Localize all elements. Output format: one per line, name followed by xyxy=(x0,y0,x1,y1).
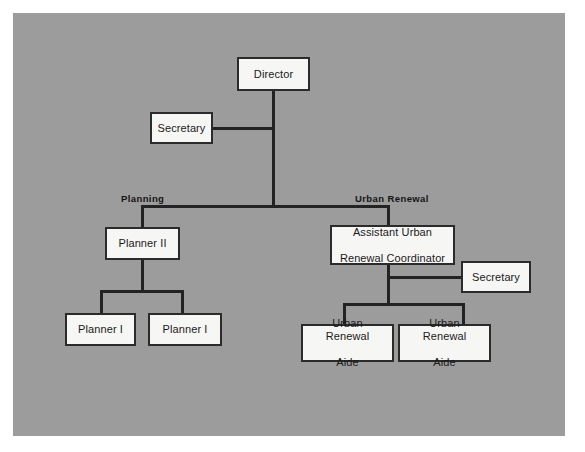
node-secretary-urban-renewal-label: Secretary xyxy=(469,271,523,284)
edge-branch-to-coordinator xyxy=(387,205,390,225)
edge-director-secretary xyxy=(212,127,275,130)
node-director-label: Director xyxy=(251,68,296,81)
node-secretary-urban-renewal[interactable]: Secretary xyxy=(461,261,531,293)
edge-branch-bar xyxy=(141,205,390,208)
node-aide-right-line-1: Urban Renewal xyxy=(403,317,486,343)
node-planner-ii-label: Planner II xyxy=(115,237,169,250)
edge-coordinator-trunk xyxy=(387,264,390,304)
node-coordinator-line-2: Renewal Coordinator xyxy=(337,252,448,265)
edge-branch-to-planner-ii xyxy=(141,205,144,228)
edge-planner-i-bar xyxy=(100,290,184,293)
node-aide-left-label: Urban Renewal Aide xyxy=(303,317,392,369)
edge-aide-bar xyxy=(343,303,465,306)
edge-coordinator-secretary xyxy=(387,276,462,279)
node-planner-i-left-label: Planner I xyxy=(75,323,126,336)
edge-bar-to-planner-i-right xyxy=(181,290,184,313)
node-planner-ii[interactable]: Planner II xyxy=(105,227,180,260)
node-aide-right-line-2: Aide xyxy=(403,356,486,369)
node-planner-i-right[interactable]: Planner I xyxy=(148,313,222,346)
node-planner-i-right-label: Planner I xyxy=(160,323,211,336)
node-secretary-director-label: Secretary xyxy=(155,122,209,135)
node-director[interactable]: Director xyxy=(237,57,310,91)
org-chart-panel: Planning Urban Renewal Director Secretar… xyxy=(13,13,565,436)
node-planner-i-left[interactable]: Planner I xyxy=(65,313,136,346)
node-aide-right-label: Urban Renewal Aide xyxy=(400,317,489,369)
edge-director-trunk xyxy=(272,90,275,208)
node-urban-renewal-aide-left[interactable]: Urban Renewal Aide xyxy=(301,324,394,362)
group-label-urban-renewal: Urban Renewal xyxy=(355,193,429,204)
node-coordinator-line-1: Assistant Urban xyxy=(337,226,448,239)
node-coordinator-label: Assistant Urban Renewal Coordinator xyxy=(334,226,451,265)
edge-bar-to-planner-i-left xyxy=(100,290,103,313)
group-label-planning: Planning xyxy=(121,193,164,204)
node-aide-left-line-2: Aide xyxy=(306,356,389,369)
node-aide-left-line-1: Urban Renewal xyxy=(306,317,389,343)
node-assistant-urban-renewal-coordinator[interactable]: Assistant Urban Renewal Coordinator xyxy=(330,225,455,265)
node-secretary-director[interactable]: Secretary xyxy=(150,112,213,144)
edge-planner-ii-trunk xyxy=(141,259,144,291)
node-urban-renewal-aide-right[interactable]: Urban Renewal Aide xyxy=(398,324,491,362)
